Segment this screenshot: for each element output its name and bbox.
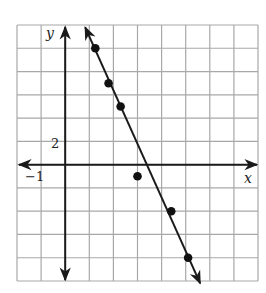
x-tick-label-neg1: −1 [25,169,44,184]
data-point [167,207,176,216]
grid [17,25,258,281]
best-fit-line [85,27,200,283]
x-axis-label: x [244,170,252,186]
data-point [184,253,193,262]
y-tick-label-2: 2 [51,136,59,151]
y-axis-label: y [45,25,55,41]
axis-labels: y x 2 −1 [25,25,252,186]
data-point [116,102,125,111]
data-point [133,172,142,181]
fit-line [85,27,200,283]
data-point [104,79,113,88]
scatter-chart: y x 2 −1 [0,0,266,293]
data-point [91,44,100,53]
